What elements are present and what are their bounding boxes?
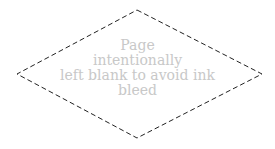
notice-line-2: intentionally (40, 53, 235, 68)
notice-line-1: Page (40, 38, 235, 53)
notice-line-3: left blank to avoid ink (40, 68, 235, 83)
notice-line-4: bleed (40, 83, 235, 98)
blank-page-notice: Page intentionally left blank to avoid i… (40, 38, 235, 98)
